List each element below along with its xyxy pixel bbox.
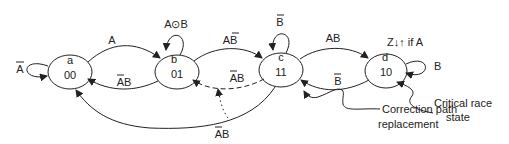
svg-text:AB: AB bbox=[215, 128, 230, 140]
svg-text:B: B bbox=[334, 75, 341, 87]
svg-text:A: A bbox=[108, 34, 116, 46]
svg-text:A⊙B: A⊙B bbox=[164, 18, 188, 30]
state-d-code: 10 bbox=[380, 66, 392, 78]
correction-pointer bbox=[304, 89, 380, 109]
state-a-name: a bbox=[67, 54, 74, 66]
svg-text:AB: AB bbox=[326, 32, 341, 44]
state-c: c 11 bbox=[259, 51, 303, 87]
transition-b-to-c: AB bbox=[194, 33, 262, 61]
transition-c-to-a: AB bbox=[76, 87, 275, 140]
state-b-code: 01 bbox=[171, 68, 183, 80]
transition-a-self: A bbox=[16, 62, 48, 77]
transition-c-self: B bbox=[273, 15, 289, 53]
state-b-name: b bbox=[171, 53, 177, 65]
state-b: b 01 bbox=[155, 53, 199, 89]
svg-text:AB: AB bbox=[117, 76, 132, 88]
state-a-code: 00 bbox=[64, 69, 76, 81]
svg-text:AB: AB bbox=[230, 72, 245, 84]
state-a: a 00 bbox=[48, 54, 92, 89]
transition-a-to-b: A bbox=[88, 34, 160, 62]
svg-text:A: A bbox=[16, 63, 24, 75]
output-annotation: Z↓↑ if A bbox=[387, 36, 424, 48]
correction-label-line2: replacement bbox=[378, 118, 439, 130]
transition-b-to-a: AB bbox=[88, 75, 158, 89]
dotted-replacement-path bbox=[218, 89, 228, 118]
state-d-name: d bbox=[382, 51, 388, 63]
transition-d-self: B bbox=[406, 60, 441, 75]
state-diagram: a 00 b 01 c 11 d 10 A A AB A⊙B bbox=[0, 0, 509, 144]
transition-d-to-c: B bbox=[301, 74, 369, 90]
critical-label-line1: Critical race bbox=[434, 97, 492, 109]
svg-text:AB: AB bbox=[223, 34, 238, 46]
state-d: d 10 bbox=[365, 51, 407, 88]
critical-label-line2: state bbox=[446, 111, 470, 123]
svg-text:B: B bbox=[276, 16, 283, 28]
state-c-code: 11 bbox=[275, 66, 286, 78]
transition-b-self: A⊙B bbox=[164, 18, 188, 55]
transition-c-to-b-dashed: AB bbox=[193, 71, 264, 89]
transition-c-to-d: AB bbox=[300, 32, 368, 59]
state-c-name: c bbox=[278, 51, 284, 63]
svg-text:B: B bbox=[434, 60, 441, 72]
